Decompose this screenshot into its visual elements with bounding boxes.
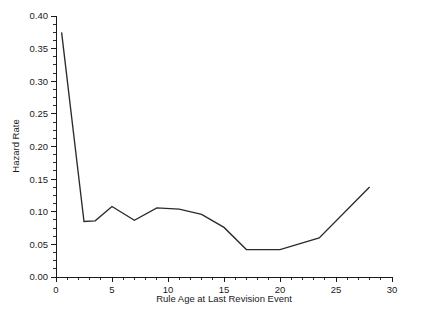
y-axis-title: Hazard Rate: [10, 119, 21, 172]
x-tick-label: 5: [109, 284, 114, 295]
y-tick-label: 0.30: [30, 76, 49, 87]
x-axis-major-ticks: [56, 277, 392, 282]
y-tick-label: 0.35: [30, 43, 49, 54]
hazard-rate-figure: 0.000.050.100.150.200.250.300.350.40 051…: [0, 0, 429, 319]
y-tick-label: 0.05: [30, 239, 49, 250]
y-tick-label: 0.10: [30, 206, 49, 217]
y-tick-label: 0.25: [30, 108, 49, 119]
hazard-rate-chart: 0.000.050.100.150.200.250.300.350.40 051…: [0, 0, 429, 319]
y-tick-label: 0.00: [30, 271, 49, 282]
x-tick-label: 0: [53, 284, 58, 295]
x-tick-label: 25: [331, 284, 342, 295]
y-axis-major-ticks: [51, 16, 56, 277]
y-tick-label: 0.40: [30, 10, 49, 21]
x-tick-label: 30: [387, 284, 398, 295]
x-axis-title: Rule Age at Last Revision Event: [156, 293, 292, 304]
y-axis-tick-labels: 0.000.050.100.150.200.250.300.350.40: [30, 10, 49, 282]
y-tick-label: 0.20: [30, 141, 49, 152]
y-tick-label: 0.15: [30, 174, 49, 185]
hazard-rate-line: [62, 32, 370, 249]
y-axis: 0.000.050.100.150.200.250.300.350.40: [30, 10, 57, 282]
